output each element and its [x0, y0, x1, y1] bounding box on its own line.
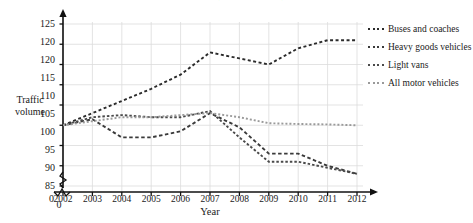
y-axis-arrow: [59, 9, 66, 17]
legend-item-all-motor-vehicles[interactable]: All motor vehicles: [368, 74, 473, 92]
legend-label: All motor vehicles: [388, 78, 459, 88]
legend-item-light-vans[interactable]: Light vans: [368, 56, 473, 74]
legend-item-buses-and-coaches[interactable]: Buses and coaches: [368, 20, 473, 38]
legend-label: Heavy goods vehicles: [388, 42, 471, 52]
legend-label: Buses and coaches: [388, 24, 459, 34]
legend-swatch-icon: [368, 64, 384, 66]
x-axis-arrow: [370, 188, 378, 195]
legend-item-heavy-goods-vehicles[interactable]: Heavy goods vehicles: [368, 38, 473, 56]
traffic-volume-line-chart: in Great Britain, from 2002 (Table TRA01…: [0, 0, 473, 223]
legend-swatch-icon: [368, 28, 384, 30]
legend-swatch-icon: [368, 82, 384, 84]
legend-swatch-icon: [368, 46, 384, 48]
legend-label: Light vans: [388, 60, 428, 70]
chart-legend: Buses and coachesHeavy goods vehiclesLig…: [368, 20, 473, 92]
